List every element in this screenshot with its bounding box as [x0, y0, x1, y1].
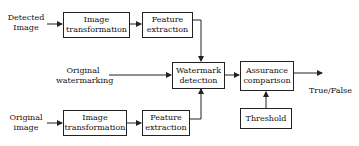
bottom-image-transformation-line1: Image [65, 113, 126, 123]
bottom-feature-extraction-block: Feature extraction [142, 110, 190, 136]
output-label: True/False [309, 86, 351, 96]
assurance-comparison-line2: comparison [243, 76, 290, 86]
arrow-bottom-feature-to-watermark [190, 89, 201, 119]
original-image-label-line2: image [6, 123, 46, 133]
bottom-feature-extraction-line2: extraction [145, 123, 186, 133]
detected-image-label-line1: Detected [6, 13, 46, 23]
original-watermarking-label-line1: Original [56, 66, 110, 76]
threshold-line1: Threshold [246, 114, 287, 124]
original-watermarking-label: Original watermarking [56, 66, 110, 86]
arrow-top-feature-to-watermark [193, 20, 201, 61]
top-feature-extraction-line1: Feature [147, 15, 188, 25]
watermark-detection-line2: detection [176, 76, 221, 86]
threshold-block: Threshold [240, 108, 292, 129]
top-image-transformation-line1: Image [66, 15, 127, 25]
watermark-detection-line1: Watermark [176, 66, 221, 76]
bottom-image-transformation-line2: transformation [65, 123, 126, 133]
original-watermarking-label-line2: watermarking [56, 76, 110, 86]
top-image-transformation-block: Image transformation [63, 12, 130, 38]
watermark-detection-block: Watermark detection [172, 62, 225, 89]
top-feature-extraction-line2: extraction [147, 25, 188, 35]
detected-image-label-line2: Image [6, 23, 46, 33]
original-image-label-line1: Original [6, 113, 46, 123]
original-image-label: Original image [6, 113, 46, 133]
assurance-comparison-line1: Assurance [243, 66, 290, 76]
assurance-comparison-block: Assurance comparison [240, 61, 294, 91]
top-feature-extraction-block: Feature extraction [142, 12, 193, 38]
detected-image-label: Detected Image [6, 13, 46, 33]
bottom-feature-extraction-line1: Feature [145, 113, 186, 123]
bottom-image-transformation-block: Image transformation [63, 110, 127, 136]
top-image-transformation-line2: transformation [66, 25, 127, 35]
